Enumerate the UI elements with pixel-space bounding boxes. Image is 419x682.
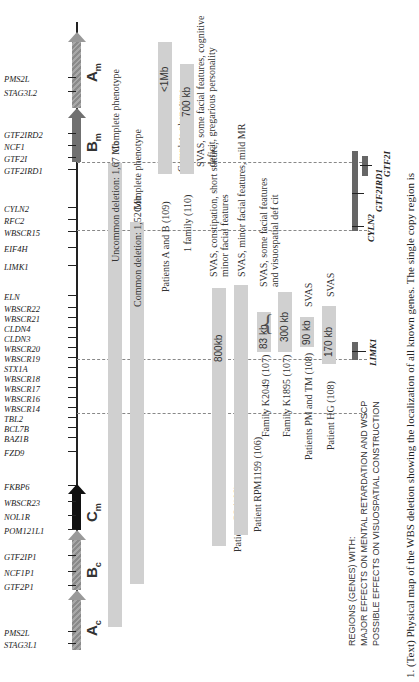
gene-label: GTF2IRD2 [4,130,43,140]
brace-icon: } [262,314,274,338]
deletion-size: 800kb [213,335,224,362]
gene-tick [68,437,76,438]
gene-label: WBSCR20 [4,344,40,354]
gene-label: WBSCR18 [4,374,40,384]
gene-tick [68,585,76,586]
segment-label-cm: Cm [83,503,103,522]
gene-label: TBL2 [4,414,23,424]
gene-tick [68,555,76,556]
phenotype-label: Complete phenotype [132,129,143,212]
regions-legend-line1: REGIONS (GENES) WITH: [346,536,358,646]
gene-tick [68,367,76,368]
gene-label: LIMK1 [4,262,29,272]
gene-tick [68,133,76,134]
gene-label: GTF2P1 [4,582,34,592]
gene-tick [68,387,76,388]
arrow-ac-icon [68,590,86,600]
gene-label: STX1A [4,364,28,374]
deletion-bar-patient-rpm1199 [234,285,248,535]
gene-tick [68,169,76,170]
deletion-label: Patients A and B (109) [160,201,171,292]
region-gene-limk1: LIMK1 [368,338,378,366]
deletion-size: 90 kb [301,321,312,345]
wbs-deletion-map: Ac Bc Cm Bm Am STAG3L1PMS2LGTF2P1NCF1P1G… [0,0,419,682]
deletion-bar-patients-ab [158,42,172,174]
gene-tick [68,77,76,78]
gene-label: WBSCR22 [4,304,40,314]
gene-label: GTF2IRD1 [4,166,43,176]
gene-tick [68,407,76,408]
gene-tick [68,501,76,502]
region-gene-cyln2: CYLN2 [366,214,376,242]
deletion-size: 300 kb [279,312,290,342]
segment-bm [72,118,81,162]
gene-label: WBSCR17 [4,384,40,394]
deletion-size: 170 kb [323,327,334,357]
segment-label-bc: Bc [83,562,103,578]
gene-tick [68,247,76,248]
gene-tick [68,643,76,644]
gene-label: BCL7B [4,424,29,434]
gene-tick [68,307,76,308]
gene-label: CYLN2 [4,204,29,214]
deletion-label: 1 family (110) [182,195,193,252]
phenotype-label: SVAS, minor facial features, mild MR [236,124,247,277]
phenotype-label: Complete phenotype [110,69,121,152]
gene-label: WBSCR19 [4,354,40,364]
gene-tick [68,515,76,516]
gene-tick [68,631,76,632]
gene-label: WBSCR14 [4,404,40,414]
segment-cm [72,494,81,530]
gene-tick [68,357,76,358]
gene-tick [68,295,76,296]
deletion-label: Family K1895 (107) [281,355,292,437]
gene-label: GTF2IP1 [4,552,37,562]
gene-label: PMS2L [4,628,30,638]
gene-tick [68,337,76,338]
deletion-label: Common deletion: 1,52 Mb [132,196,143,307]
gene-label: GTF2I [4,154,27,164]
segment-am [72,42,81,108]
region-tick [352,226,364,227]
arrow-bm-icon [68,108,86,118]
gene-tick [68,317,76,318]
deletion-label: Family K2049 (107) [260,355,271,437]
gene-tick [68,347,76,348]
gene-label: ELN [4,292,20,302]
gene-tick [68,571,76,572]
region-tick [360,165,372,166]
segment-label-bm: Bm [83,133,103,152]
gene-label: CLDN4 [4,324,30,334]
phenotype-label: SVAS [325,273,336,297]
shared-phenotype-line1: SVAS, some facial features [258,178,269,287]
gene-tick [68,145,76,146]
deletion-bar-patient-cs [212,288,226,546]
gene-label: STAG3L1 [4,640,37,650]
gene-tick [68,327,76,328]
gene-tick [68,427,76,428]
region-bar-gtf2i [362,156,368,176]
gene-tick [68,91,76,92]
gene-tick [68,219,76,220]
region-tick [352,193,364,194]
figure-caption: 1. (Text) Physical map of the WBS deleti… [404,173,416,678]
region-bar-cyln2-gtf2i [352,151,358,231]
gene-label: WBSCR23 [4,498,40,508]
segment-label-am: Am [83,63,103,82]
deletion-size: <1Mb [159,67,170,92]
gene-label: NCF1P1 [4,568,34,578]
regions-legend-line3: POSSIBLE EFFECTS ON VISUOSPATIAL CONSTRU… [370,401,382,646]
gene-label: POM121L1 [4,526,44,536]
segment-bc [72,540,81,590]
deletion-label: Patient HG (108) [325,381,336,450]
gene-tick [68,231,76,232]
gene-tick [68,377,76,378]
gene-tick [68,157,76,158]
shared-phenotype-line2: and visuospatial def cit [269,195,280,287]
gene-label: BAZ1B [4,434,29,444]
gene-label: NOL1R [4,512,30,522]
phenotype-label: SVAS, constipation, short stature, minor… [208,127,230,277]
deletion-label: Patient RPM1199 (106) [252,437,263,532]
gene-tick [68,485,76,486]
gene-label: CLDN3 [4,334,30,344]
